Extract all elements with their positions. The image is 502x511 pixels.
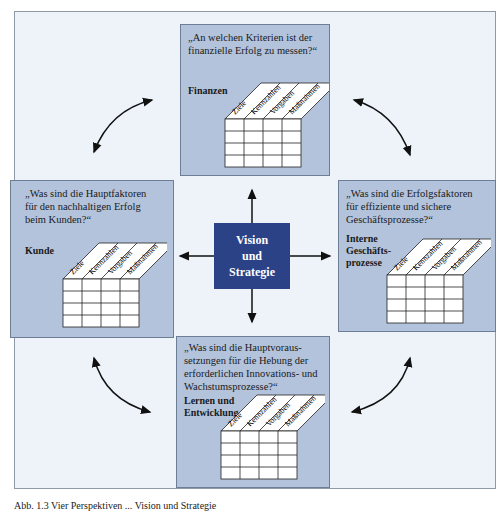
- arc-bottom-left: [94, 358, 150, 412]
- arc-top-left: [94, 100, 152, 152]
- figure-caption: Abb. 1.3 Vier Perspektiven ... Vision un…: [14, 500, 216, 511]
- arc-bottom-right: [352, 358, 410, 412]
- center-line: und: [242, 248, 262, 264]
- arc-top-right: [354, 100, 410, 155]
- center-line: Vision: [236, 232, 268, 248]
- center-line: Strategie: [229, 264, 275, 280]
- vision-strategy-box: Vision und Strategie: [214, 223, 290, 289]
